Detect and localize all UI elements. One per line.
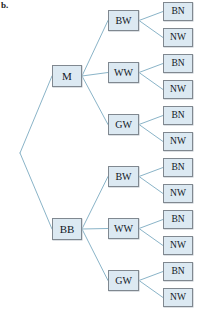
tree-edge-bb-bb-bw [82, 177, 108, 230]
tree-edge-m-gw-m-gw-bn [139, 116, 163, 125]
tree-edge-bb-gw-bb-gw-bn [139, 272, 163, 281]
tree-node-m-gw: GW [108, 114, 139, 135]
tree-node-label: NW [170, 137, 186, 147]
tree-edge-bb-bb-ww [82, 229, 108, 230]
tree-node-bb-bw: BW [108, 166, 139, 187]
tree-edge-m-m-gw [82, 76, 108, 125]
tree-node-label: BW [115, 172, 131, 182]
tree-node-label: BN [171, 59, 184, 69]
tree-node-label: BN [171, 7, 184, 17]
tree-edge-m-bw-m-bw-bn [139, 12, 163, 21]
tree-node-m-ww: WW [108, 62, 139, 83]
tree-edge-bb-ww-bb-ww-bn [139, 220, 163, 229]
tree-edge-bb-gw-bb-gw-nw [139, 281, 163, 298]
tree-edge-bb-bw-bb-bw-bn [139, 168, 163, 177]
tree-edge-m-gw-m-gw-nw [139, 125, 163, 142]
tree-node-bb-ww-nw: NW [163, 236, 193, 255]
tree-edge-root-bb [20, 153, 52, 229]
tree-node-bb: BB [52, 218, 82, 240]
tree-node-m: M [52, 65, 82, 87]
tree-node-m-bw-nw: NW [163, 28, 193, 47]
tree-node-label: NW [170, 241, 186, 251]
tree-edge-bb-ww-bb-ww-nw [139, 229, 163, 246]
tree-node-label: NW [170, 293, 186, 303]
tree-node-m-ww-bn: BN [163, 54, 193, 73]
tree-node-bb-bw-bn: BN [163, 158, 193, 177]
tree-node-bb-gw-bn: BN [163, 262, 193, 281]
tree-node-bb-bw-nw: NW [163, 184, 193, 203]
tree-node-m-bw-bn: BN [163, 2, 193, 21]
tree-node-label: NW [170, 33, 186, 43]
tree-node-bb-ww-bn: BN [163, 210, 193, 229]
tree-node-m-gw-nw: NW [163, 132, 193, 151]
tree-node-label: WW [114, 224, 133, 234]
tree-edge-m-ww-m-ww-bn [139, 64, 163, 73]
tree-node-label: BN [171, 111, 184, 121]
tree-node-bb-gw-nw: NW [163, 288, 193, 307]
tree-node-label: NW [170, 85, 186, 95]
tree-node-label: M [62, 71, 72, 82]
tree-node-label: BN [171, 163, 184, 173]
tree-node-label: WW [114, 68, 133, 78]
tree-node-label: BN [171, 215, 184, 225]
tree-edge-bb-bb-gw [82, 229, 108, 281]
tree-edge-m-m-bw [82, 21, 108, 77]
tree-diagram-figure: b. MBBBWWWGWBWWWGWBNNWBNNWBNNWBNNWBNNWBN… [0, 0, 198, 312]
tree-node-m-bw: BW [108, 10, 139, 31]
tree-edge-bb-bw-bb-bw-nw [139, 177, 163, 194]
tree-edge-root-m [20, 76, 52, 153]
tree-edge-m-m-ww [82, 73, 108, 77]
tree-node-m-ww-nw: NW [163, 80, 193, 99]
tree-node-label: BN [171, 267, 184, 277]
tree-node-bb-gw: GW [108, 270, 139, 291]
tree-node-label: BB [60, 224, 75, 235]
tree-node-m-gw-bn: BN [163, 106, 193, 125]
tree-node-label: GW [115, 276, 132, 286]
part-label: b. [1, 1, 8, 10]
tree-node-label: BW [115, 16, 131, 26]
tree-node-label: NW [170, 189, 186, 199]
tree-node-bb-ww: WW [108, 218, 139, 239]
tree-edge-m-ww-m-ww-nw [139, 73, 163, 90]
tree-edge-m-bw-m-bw-nw [139, 21, 163, 38]
tree-node-label: GW [115, 120, 132, 130]
